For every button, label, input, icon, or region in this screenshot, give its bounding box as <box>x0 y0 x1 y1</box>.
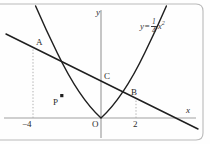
origin-label: O <box>92 120 99 129</box>
equation-numerator: 1 <box>151 18 157 26</box>
tick-label-2: 2 <box>133 120 138 129</box>
equation-exponent: 2 <box>162 20 165 26</box>
equation-denominator: 4 <box>151 27 157 35</box>
point-label-P: P <box>53 98 58 107</box>
x-axis-label: x <box>186 106 190 115</box>
equation-label: y= 1 4 x2 <box>140 18 165 34</box>
equation-fraction: 1 4 <box>151 18 157 34</box>
point-label-C: C <box>104 72 110 81</box>
tick-label-minus-4: −4 <box>22 120 32 129</box>
y-axis-label: y <box>96 8 100 17</box>
point-label-B: B <box>131 88 137 97</box>
point-label-A: A <box>36 38 43 47</box>
secant-line <box>6 34 198 129</box>
equation-equals: = <box>144 21 150 31</box>
point-P-marker <box>60 94 63 97</box>
graph-figure: y x O −4 2 A C B P y= 1 4 x2 <box>0 0 210 144</box>
